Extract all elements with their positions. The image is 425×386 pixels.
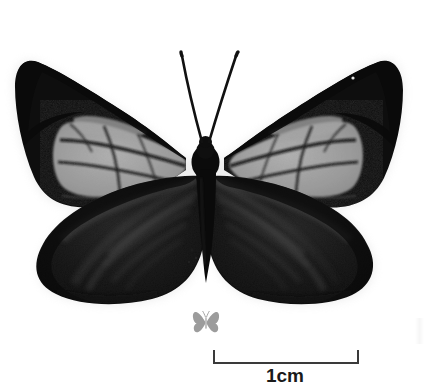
scale-bar-line (213, 362, 357, 364)
specimen-figure: 1cm (0, 0, 425, 386)
scan-edge-artifact (415, 318, 424, 344)
scale-bar: 1cm (213, 345, 359, 385)
scale-bar-label: 1cm (213, 365, 357, 386)
butterfly-silhouette-watermark (191, 308, 221, 336)
scale-tick-right (357, 350, 359, 364)
scale-tick-left (213, 350, 215, 364)
